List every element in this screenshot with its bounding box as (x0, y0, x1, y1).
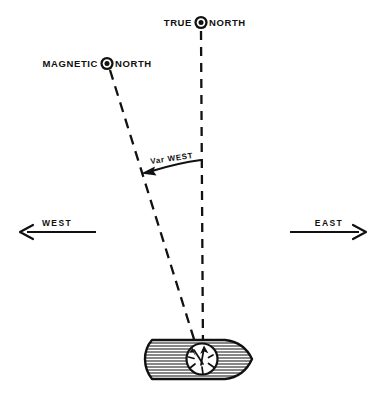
true-north-line-group (201, 31, 203, 351)
east-arrow-group: EAST (290, 218, 366, 239)
true-north-dashed-line (201, 31, 203, 351)
true-north-label-group: TRUE NORTH (164, 16, 246, 29)
circled-dot-icon (194, 16, 207, 29)
diagram-canvas: TRUE NORTH MAGNETIC NORTH (0, 0, 386, 399)
true-north-label-prefix: TRUE (164, 17, 192, 28)
east-label: EAST (315, 218, 343, 228)
compass-tick-s (202, 367, 203, 374)
magnetic-north-label-suffix: NORTH (115, 58, 152, 69)
magnetic-variation-diagram: TRUE NORTH MAGNETIC NORTH (0, 0, 386, 399)
west-label: WEST (42, 218, 72, 228)
magnetic-north-dashed-line (110, 70, 198, 352)
magnetic-north-label-group: MAGNETIC NORTH (43, 57, 152, 70)
west-arrow-group: WEST (20, 218, 96, 239)
compass-rose (187, 344, 218, 375)
variation-label: Var WEST (150, 151, 194, 166)
magnetic-north-label-prefix: MAGNETIC (43, 58, 98, 69)
magnetic-north-line-group (110, 70, 198, 352)
variation-label-group: Var WEST (150, 151, 194, 166)
true-north-label-suffix: NORTH (209, 17, 246, 28)
ship-group (143, 340, 254, 379)
circled-dot-icon (100, 57, 113, 70)
